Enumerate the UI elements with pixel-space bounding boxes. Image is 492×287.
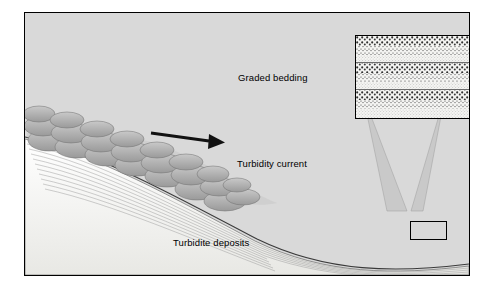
graded-bedding-inset [355,35,470,119]
graded-bedding-inset-art [356,36,470,118]
label-turbidity-current: Turbidity current [237,158,307,169]
diagram-frame: Graded bedding Turbidity current Turbidi… [24,12,470,276]
label-turbidite-deposits: Turbidite deposits [173,237,249,248]
label-graded-bedding: Graded bedding [238,72,308,83]
inset-source-rectangle [410,221,447,240]
figure-turbidity-current: Graded bedding Turbidity current Turbidi… [0,0,492,287]
